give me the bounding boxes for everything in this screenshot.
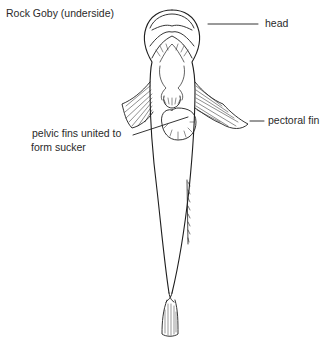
rock-goby-illustration (0, 0, 336, 348)
right-pectoral-fin (195, 82, 248, 129)
head-detail (150, 14, 194, 62)
head-label: head (265, 17, 288, 30)
tail-fin (162, 300, 178, 336)
left-pectoral-fin (122, 82, 153, 128)
sucker-label-line1: pelvic fins united to (32, 127, 121, 140)
sucker-leader-line (133, 117, 188, 135)
pelvic-sucker (161, 96, 196, 140)
belly-detail (159, 66, 184, 100)
sucker-label-line2: form sucker (31, 141, 86, 154)
body-outline (144, 10, 199, 302)
pectoral-fin-label: pectoral fin (268, 114, 319, 127)
